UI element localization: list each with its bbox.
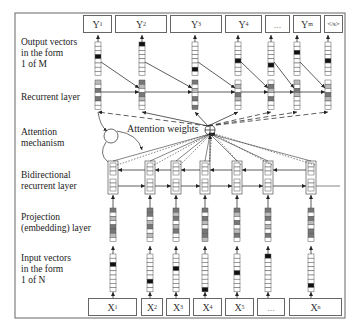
recurrent-vector-cell	[139, 105, 145, 109]
output-vector-cell	[235, 50, 241, 54]
output-token-eos: </s>	[324, 15, 343, 33]
input-vector-cell	[147, 262, 153, 266]
input-vector-cell	[234, 267, 240, 271]
output-vector-cell	[139, 67, 145, 71]
projection-vector-cell	[234, 216, 240, 220]
token-base: X	[202, 302, 209, 313]
input-vector-cell	[173, 283, 179, 287]
output-vector-cell	[235, 63, 241, 67]
input-vector-cell	[308, 271, 314, 275]
token-sub: 1	[100, 21, 103, 27]
input-token-x5: X5	[225, 298, 254, 316]
input-vector-cell	[308, 254, 314, 258]
recurrent-vector-cell	[192, 97, 198, 101]
recurrent-vector-cell	[235, 93, 241, 97]
recurrent-vector-cell	[235, 80, 241, 84]
projection-vector-cell	[173, 212, 179, 216]
projection-vector-cell	[308, 212, 314, 216]
output-vector-cell	[325, 46, 331, 50]
projection-vector-cell	[173, 237, 179, 241]
output-vector-cell	[268, 55, 274, 59]
token-sub: m	[308, 21, 313, 27]
recurrent-vector-cell	[294, 88, 300, 92]
recurrent-vector-cell	[325, 105, 331, 109]
input-vector-cell	[202, 262, 208, 266]
output-vector-cell	[325, 71, 331, 75]
input-vector-cell	[234, 275, 240, 279]
output-vector-cell	[95, 63, 101, 67]
diagram-canvas: Output vectors in the form 1 of M Recurr…	[0, 0, 358, 336]
output-vector-cell	[268, 42, 274, 46]
recurrent-vector-cell	[294, 101, 300, 105]
projection-vector-cell	[147, 237, 153, 241]
projection-vector-cell	[202, 212, 208, 216]
token-base: Y	[92, 19, 99, 30]
input-vector-cell	[110, 279, 116, 283]
label-bidirectional-layer: Bidirectional recurrent layer	[21, 170, 77, 192]
output-vector-cell	[268, 59, 274, 63]
label-attention-mechanism: Attention mechanism	[21, 127, 64, 149]
input-vector-cell	[202, 283, 208, 287]
output-vector-cell	[139, 63, 145, 67]
output-vector-cell	[192, 42, 198, 46]
recurrent-vector-cell	[268, 93, 274, 97]
projection-vector-cell	[173, 229, 179, 233]
projection-vector-cell	[110, 208, 116, 212]
recurrent-vector-cell	[192, 105, 198, 109]
recurrent-vector-cell	[95, 97, 101, 101]
recurrent-vector-cell	[192, 80, 198, 84]
input-vector-cell	[265, 288, 271, 292]
input-vector-cell	[265, 283, 271, 287]
projection-vector-cell	[202, 208, 208, 212]
recurrent-vector-cell	[139, 97, 145, 101]
projection-vector-cell	[173, 221, 179, 225]
recurrent-vector-cell	[268, 80, 274, 84]
recurrent-vector-cell	[268, 105, 274, 109]
projection-vector-cell	[110, 221, 116, 225]
projection-vector-cell	[234, 229, 240, 233]
recurrent-vector-cell	[139, 93, 145, 97]
projection-vector-cell	[265, 225, 271, 229]
output-vector-cell	[268, 71, 274, 75]
recurrent-vector-cell	[268, 88, 274, 92]
token-sub: 5	[242, 304, 245, 310]
token-base: </s>	[327, 20, 340, 28]
projection-vector-cell	[110, 212, 116, 216]
output-vector-cell	[192, 63, 198, 67]
token-base: X	[173, 302, 180, 313]
token-sub: 3	[180, 304, 183, 310]
recurrent-vector-cell	[95, 88, 101, 92]
token-sub: 2	[154, 304, 157, 310]
token-base: Y	[136, 19, 143, 30]
projection-vector-cell	[265, 221, 271, 225]
input-vector-cell	[234, 288, 240, 292]
recurrent-vector-cell	[268, 101, 274, 105]
output-vector-cell	[192, 71, 198, 75]
recurrent-vector-cell	[325, 93, 331, 97]
output-vector-cell	[294, 42, 300, 46]
input-vector-cell	[110, 262, 116, 266]
token-base: X	[310, 302, 317, 313]
output-vector-cell	[294, 67, 300, 71]
input-vector-cell	[265, 258, 271, 262]
projection-vector-cell	[308, 229, 314, 233]
projection-vector-cell	[173, 216, 179, 220]
output-vector-cell	[235, 46, 241, 50]
output-vector-cell	[95, 59, 101, 63]
recurrent-vector-cell	[192, 101, 198, 105]
input-vector-cell	[147, 254, 153, 258]
recurrent-vector-cell	[139, 84, 145, 88]
input-vector-cell	[110, 254, 116, 258]
output-token-y4: Y4	[225, 15, 262, 33]
projection-vector-cell	[202, 233, 208, 237]
output-vector-cell	[95, 50, 101, 54]
recurrent-vector-cell	[235, 97, 241, 101]
token-sub: 4	[210, 304, 213, 310]
recurrent-vector-cell	[294, 93, 300, 97]
input-vector-cell	[202, 254, 208, 258]
input-vector-cell	[308, 279, 314, 283]
output-vector-cell	[95, 71, 101, 75]
input-vector-cell	[308, 267, 314, 271]
input-vector-cell	[234, 262, 240, 266]
input-vector-cell	[234, 279, 240, 283]
